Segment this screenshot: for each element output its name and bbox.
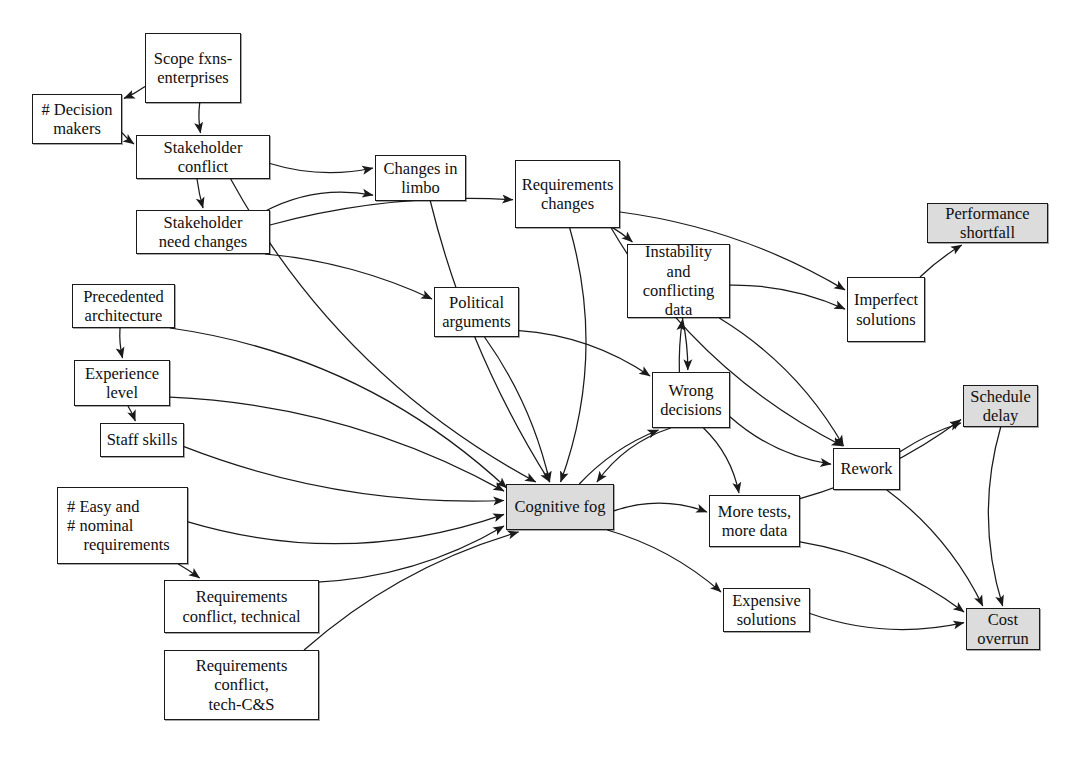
- edge-decision-to-stakeconf: [122, 133, 134, 144]
- edge-stakeneed-to-limbo: [264, 192, 373, 212]
- edge-scope-to-stakeconf: [199, 103, 201, 133]
- edge-stakeconf-to-limbo: [270, 164, 373, 173]
- node-rework[interactable]: Rework: [833, 448, 900, 490]
- node-expensive[interactable]: Expensive solutions: [723, 588, 810, 632]
- edge-instability-to-wrongdec: [682, 318, 687, 370]
- edge-easynominal-to-cogfog: [188, 514, 504, 543]
- node-instability[interactable]: Instability and conflicting data: [627, 244, 730, 318]
- node-label-reqchanges: Requirements changes: [522, 175, 614, 214]
- node-political[interactable]: Political arguments: [434, 287, 519, 337]
- edge-reqcs-to-cogfog: [304, 532, 518, 650]
- node-label-expensive: Expensive solutions: [732, 591, 801, 630]
- node-scheduledelay[interactable]: Schedule delay: [963, 385, 1038, 427]
- edge-reqchanges-to-instability: [611, 227, 632, 242]
- edge-staffskills-to-cogfog: [184, 447, 504, 501]
- edge-instability-to-rework: [719, 318, 843, 446]
- edge-easynominal-to-reqtech: [178, 564, 199, 578]
- node-label-perfshort: Performance shortfall: [945, 204, 1029, 243]
- node-label-rework: Rework: [840, 459, 892, 478]
- edge-precedent-to-experience: [120, 328, 123, 358]
- node-label-staffskills: Staff skills: [107, 430, 178, 449]
- edge-political-to-wrongdec: [519, 331, 650, 376]
- diagram-canvas: Scope fxns- enterprises# Decision makers…: [0, 0, 1086, 757]
- edge-imperfect-to-perfshort: [920, 245, 962, 277]
- node-staffskills[interactable]: Staff skills: [100, 423, 184, 457]
- node-moretests[interactable]: More tests, more data: [709, 495, 800, 547]
- edge-cogfog-to-moretests: [614, 503, 707, 512]
- edge-reqchanges-to-cogfog: [561, 228, 586, 482]
- edge-experience-to-staffskills: [128, 406, 135, 421]
- node-decision[interactable]: # Decision makers: [32, 94, 122, 144]
- edge-scheduledelay-to-costoverrun: [988, 427, 1002, 606]
- node-limbo[interactable]: Changes in limbo: [375, 155, 466, 201]
- node-label-scope: Scope fxns- enterprises: [154, 49, 232, 88]
- node-stakeneed[interactable]: Stakeholder need changes: [136, 210, 270, 254]
- node-label-easynominal: # Easy and # nominal requirements: [67, 497, 170, 555]
- edge-experience-to-cogfog: [170, 397, 504, 491]
- edge-wrongdec-to-instability: [679, 320, 682, 372]
- node-costoverrun[interactable]: Cost overrun: [966, 608, 1040, 650]
- edge-scope-to-decision: [124, 87, 145, 99]
- edge-stakeneed-to-political: [265, 254, 432, 299]
- edge-stakeconf-to-stakeneed: [197, 179, 203, 208]
- edge-moretests-to-costoverrun: [800, 542, 964, 612]
- node-label-scheduledelay: Schedule delay: [970, 387, 1030, 426]
- node-label-stakeneed: Stakeholder need changes: [159, 213, 247, 252]
- edge-reqtech-to-cogfog: [314, 526, 504, 582]
- node-experience[interactable]: Experience level: [74, 360, 170, 406]
- node-label-imperfect: Imperfect solutions: [854, 290, 918, 329]
- edge-political-to-cogfog: [485, 337, 550, 482]
- edge-precedent-to-cogfog: [170, 328, 507, 488]
- edge-wrongdec-to-moretests: [704, 428, 739, 493]
- node-label-limbo: Changes in limbo: [384, 159, 458, 198]
- node-label-political: Political arguments: [442, 293, 510, 332]
- node-reqchanges[interactable]: Requirements changes: [515, 160, 620, 228]
- node-label-cogfog: Cognitive fog: [514, 497, 605, 516]
- node-imperfect[interactable]: Imperfect solutions: [847, 277, 925, 342]
- edge-rework-to-scheduledelay: [900, 423, 961, 452]
- node-label-instability: Instability and conflicting data: [632, 242, 725, 319]
- edge-stakeneed-to-reqchanges: [270, 198, 513, 225]
- node-reqcs[interactable]: Requirements conflict, tech-C&S: [164, 650, 319, 720]
- edge-wrongdec-to-rework: [730, 417, 831, 464]
- node-label-precedent: Precedented architecture: [83, 287, 164, 326]
- node-label-decision: # Decision makers: [41, 100, 112, 139]
- node-cogfog[interactable]: Cognitive fog: [506, 484, 614, 530]
- edge-rework-to-costoverrun: [887, 490, 983, 606]
- node-label-costoverrun: Cost overrun: [977, 610, 1028, 649]
- node-label-stakeconf: Stakeholder conflict: [164, 138, 243, 177]
- node-scope[interactable]: Scope fxns- enterprises: [145, 33, 241, 103]
- edge-wrongdec-to-cogfog: [597, 428, 671, 482]
- node-wrongdec[interactable]: Wrong decisions: [652, 372, 730, 428]
- node-reqtech[interactable]: Requirements conflict, technical: [164, 580, 319, 633]
- edge-cogfog-to-expensive: [607, 530, 721, 592]
- node-label-experience: Experience level: [85, 364, 159, 403]
- node-stakeconf[interactable]: Stakeholder conflict: [136, 135, 270, 179]
- node-label-moretests: More tests, more data: [718, 502, 791, 541]
- edge-expensive-to-costoverrun: [810, 614, 964, 630]
- node-perfshort[interactable]: Performance shortfall: [927, 203, 1048, 243]
- edge-cogfog-to-wrongdec: [579, 430, 658, 484]
- node-label-reqtech: Requirements conflict, technical: [182, 587, 300, 626]
- node-easynominal[interactable]: # Easy and # nominal requirements: [57, 487, 188, 564]
- node-precedent[interactable]: Precedented architecture: [72, 284, 175, 328]
- edge-limbo-to-cogfog: [430, 201, 550, 482]
- node-label-wrongdec: Wrong decisions: [660, 381, 721, 420]
- node-label-reqcs: Requirements conflict, tech-C&S: [196, 656, 288, 714]
- edge-instability-to-imperfect: [730, 285, 845, 309]
